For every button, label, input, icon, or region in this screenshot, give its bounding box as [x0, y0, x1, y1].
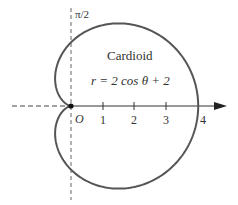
tick-label-1: 1 [100, 113, 106, 127]
curve-equation: r = 2 cos θ + 2 [91, 73, 170, 88]
pole-point [68, 103, 73, 108]
tick-label-4: 4 [200, 113, 206, 127]
cardioid-figure: π/2 Cardioid r = 2 cos θ + 2 O 1 2 3 4 [0, 0, 238, 205]
tick-label-2: 2 [131, 113, 137, 127]
plot-canvas: π/2 Cardioid r = 2 cos θ + 2 O 1 2 3 4 [0, 0, 238, 205]
arrow-icon [214, 102, 227, 110]
tick-label-3: 3 [163, 113, 169, 127]
curve-title: Cardioid [107, 48, 153, 63]
axis-label-pi-over-2: π/2 [75, 8, 89, 20]
pole-label: O [75, 112, 84, 126]
